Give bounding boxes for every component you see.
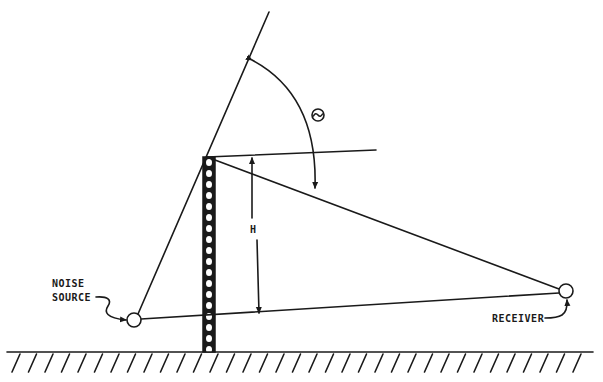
receiver-label: RECEIVER: [492, 313, 545, 324]
hatch-mark: [375, 354, 383, 372]
height-dimension: H: [250, 158, 259, 313]
hatch-mark: [540, 354, 548, 372]
receiver: RECEIVER: [492, 284, 573, 324]
noise-source-label-line1: NOISE: [52, 278, 85, 289]
height-label: H: [250, 224, 257, 235]
receiver-pointer: [545, 300, 567, 318]
hatch-mark: [441, 354, 449, 372]
hatch-mark: [95, 354, 103, 372]
hatch-mark: [144, 354, 152, 372]
ground-hatching: [12, 354, 581, 372]
ground: [7, 352, 593, 372]
hatch-mark: [227, 354, 235, 372]
receiver-circle: [559, 284, 573, 298]
hatch-mark: [392, 354, 400, 372]
hatch-mark: [12, 354, 20, 372]
hatch-mark: [78, 354, 86, 372]
hatch-mark: [309, 354, 317, 372]
hatch-mark: [194, 354, 202, 372]
hatch-mark: [293, 354, 301, 372]
noise-source-circle: [127, 313, 141, 327]
tower: [203, 157, 215, 352]
noise-source: NOISE SOURCE: [52, 278, 141, 327]
hatch-mark: [491, 354, 499, 372]
hatch-mark: [557, 354, 565, 372]
hatch-mark: [62, 354, 70, 372]
hatch-mark: [260, 354, 268, 372]
hatch-mark: [276, 354, 284, 372]
diagram-canvas: H NOISE SOURCE RECEIVER: [0, 0, 603, 382]
hatch-mark: [507, 354, 515, 372]
noise-source-pointer: [96, 297, 126, 320]
angle-arc: [252, 60, 315, 188]
horizontal-reference-line: [207, 150, 376, 157]
height-arrow-down: [257, 240, 259, 313]
hatch-mark: [29, 354, 37, 372]
hatch-mark: [408, 354, 416, 372]
hatch-mark: [210, 354, 218, 372]
hatch-mark: [45, 354, 53, 372]
hatch-mark: [161, 354, 169, 372]
tower-receiver-line: [207, 157, 559, 289]
noise-source-label-line2: SOURCE: [52, 292, 91, 303]
hatch-mark: [573, 354, 581, 372]
hatch-mark: [111, 354, 119, 372]
hatch-mark: [524, 354, 532, 372]
hatch-mark: [128, 354, 136, 372]
hatch-mark: [243, 354, 251, 372]
lattice-tower: [203, 157, 215, 352]
hatch-mark: [359, 354, 367, 372]
theta-symbol: [312, 109, 324, 121]
hatch-mark: [458, 354, 466, 372]
hatch-mark: [474, 354, 482, 372]
hatch-mark: [425, 354, 433, 372]
hatch-mark: [342, 354, 350, 372]
hatch-mark: [326, 354, 334, 372]
hatch-mark: [177, 354, 185, 372]
